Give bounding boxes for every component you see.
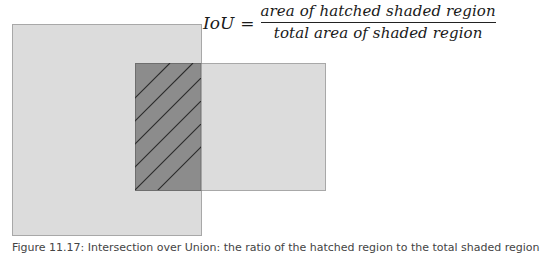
figure-caption: Figure 11.17: Intersection over Union: t… [12,242,540,254]
fraction-bar [261,22,496,23]
fraction-denominator: total area of shaded region [274,24,483,43]
iou-equation: IoU = area of hatched shaded region tota… [203,2,496,43]
equation-lhs: IoU [203,13,234,33]
fraction-numerator: area of hatched shaded region [261,2,496,21]
fraction: area of hatched shaded region total area… [261,2,496,43]
equals-sign: = [240,13,254,33]
intersection-region [136,64,202,191]
